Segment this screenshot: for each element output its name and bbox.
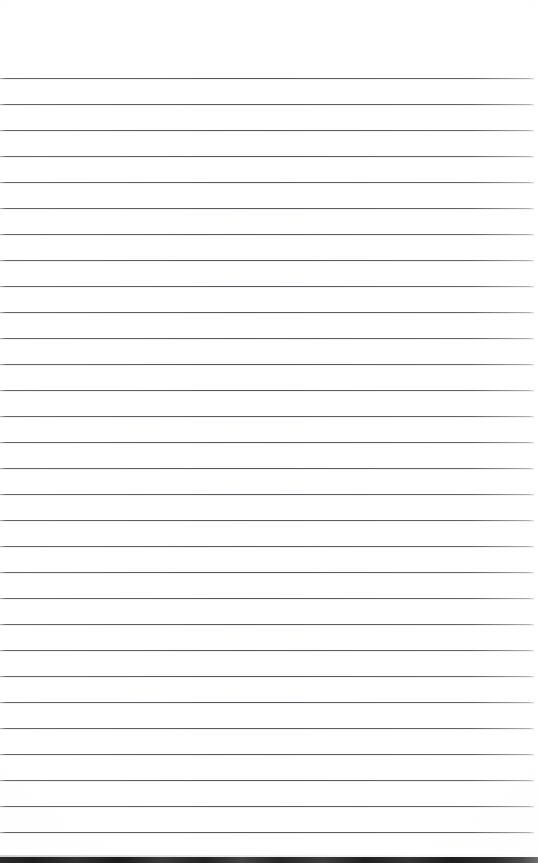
rule-line — [0, 286, 534, 287]
ruled-lines-group — [0, 0, 538, 863]
rule-line — [0, 702, 534, 703]
rule-line — [0, 598, 534, 599]
rule-line — [0, 780, 534, 781]
rule-line — [0, 260, 534, 261]
rule-line — [0, 182, 534, 183]
rule-line — [0, 754, 534, 755]
rule-line — [0, 468, 534, 469]
rule-line — [0, 338, 534, 339]
rule-line — [0, 728, 534, 729]
rule-line — [0, 624, 534, 625]
rule-line — [0, 650, 534, 651]
rule-line — [0, 208, 534, 209]
rule-line — [0, 806, 534, 807]
rule-line — [0, 416, 534, 417]
scanned-page — [0, 0, 538, 863]
rule-line — [0, 520, 534, 521]
rule-line — [0, 676, 534, 677]
rule-line — [0, 234, 534, 235]
scanner-bottom-edge — [0, 857, 538, 863]
rule-line — [0, 572, 534, 573]
rule-line — [0, 156, 534, 157]
rule-line — [0, 494, 534, 495]
rule-line — [0, 390, 534, 391]
rule-line — [0, 442, 534, 443]
rule-line — [0, 546, 534, 547]
rule-line — [0, 312, 534, 313]
rule-line — [0, 130, 534, 131]
rule-line — [0, 832, 534, 833]
rule-line — [0, 104, 534, 105]
rule-line — [0, 78, 534, 79]
rule-line — [0, 364, 534, 365]
